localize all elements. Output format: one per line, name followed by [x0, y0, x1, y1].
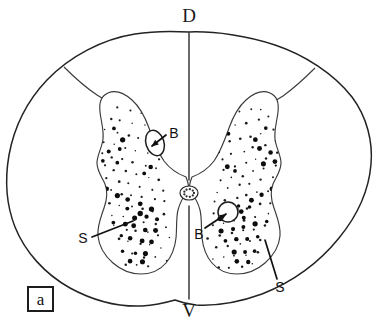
stipple-dot: [227, 187, 229, 189]
stipple-dot: [225, 164, 230, 169]
stipple-dot: [264, 144, 266, 146]
stipple-dot: [116, 106, 118, 108]
stipple-dot: [228, 267, 230, 269]
stipple-dot: [140, 113, 142, 115]
stipple-dot: [107, 149, 111, 153]
stipple-dot: [147, 231, 149, 233]
stipple-dot: [128, 236, 133, 241]
stipple-dot: [163, 213, 166, 216]
stipple-dot: [111, 221, 115, 225]
stipple-dot: [235, 259, 240, 264]
stipple-dot: [110, 189, 112, 191]
central-canal-dot: [189, 196, 191, 198]
stipple-dot: [267, 190, 269, 192]
stipple-dot: [155, 217, 159, 221]
stipple-dot: [105, 177, 107, 179]
stipple-dot: [143, 228, 148, 233]
stipple-dot: [118, 237, 121, 240]
stipple-dot: [245, 194, 248, 197]
stipple-dot: [245, 254, 247, 256]
stipple-dot: [239, 137, 242, 140]
stipple-dot: [242, 216, 246, 220]
stipple-dot: [144, 215, 148, 219]
stipple-dot: [228, 140, 230, 142]
stipple-dot: [265, 157, 268, 160]
stipple-dot: [224, 199, 227, 202]
stipple-dot: [121, 158, 123, 160]
stipple-dot: [101, 152, 103, 154]
stipple-dot: [143, 256, 145, 258]
panel-label-box: a: [27, 286, 54, 312]
stipple-dot: [157, 178, 160, 181]
stipple-dot: [149, 244, 150, 245]
stipple-dot: [243, 151, 245, 153]
stipple-dot: [251, 146, 253, 148]
stipple-dot: [248, 205, 252, 209]
stipple-dot: [135, 173, 137, 175]
central-canal-dot: [183, 193, 185, 195]
stipple-dot: [126, 229, 128, 231]
stipple-dot: [131, 252, 133, 254]
stipple-dot: [239, 209, 244, 214]
stipple-dot: [110, 118, 112, 120]
stipple-dot: [148, 177, 149, 178]
panel-label-letter: a: [37, 291, 45, 308]
stipple-dot: [139, 186, 141, 188]
stipple-dot: [125, 170, 128, 173]
stipple-dot: [155, 167, 157, 169]
stipple-dot: [162, 190, 164, 192]
stipple-dot: [231, 232, 234, 235]
stipple-dot: [253, 221, 258, 226]
stipple-dot: [263, 167, 265, 169]
stipple-dot: [157, 234, 159, 236]
stipple-dot: [117, 132, 119, 134]
stipple-dot: [224, 239, 228, 243]
stipple-dot: [218, 234, 221, 237]
stipple-dot: [206, 237, 209, 240]
stipple-dot: [140, 196, 142, 198]
stipple-dot: [236, 197, 238, 199]
central-canal-dot: [193, 192, 195, 194]
stipple-dot: [227, 245, 229, 247]
stipple-dot: [131, 206, 133, 208]
ventral-orientation-label: V: [182, 300, 196, 321]
stipple-dot: [264, 126, 268, 130]
stipple-dot: [145, 165, 147, 167]
stipple-dot: [258, 119, 260, 121]
stipple-dot: [216, 192, 218, 194]
stipple-dot: [223, 256, 225, 258]
stipple-dot: [129, 109, 131, 111]
stipple-dot: [140, 259, 145, 264]
stipple-dot: [249, 240, 251, 242]
stipple-dot: [149, 206, 154, 211]
stipple-dot: [108, 202, 111, 205]
spinal-cord-figure: D V B B S S a: [0, 0, 379, 323]
stipple-dot: [242, 175, 245, 178]
stipple-dot: [140, 238, 145, 243]
dorsal-orientation-label: D: [182, 5, 196, 26]
stipple-dot: [252, 263, 254, 265]
stipple-dot: [151, 189, 153, 191]
annotation-label-b-right: B: [194, 226, 203, 242]
stipple-dot: [268, 213, 270, 215]
stipple-dot: [134, 252, 138, 256]
stipple-dot: [256, 235, 260, 239]
stipple-dot: [137, 137, 139, 139]
stipple-dot: [212, 258, 214, 260]
stipple-dot: [234, 124, 235, 125]
stipple-dot: [261, 161, 266, 166]
stipple-dot: [158, 158, 160, 160]
stipple-dot: [259, 203, 262, 206]
stipple-dot: [267, 116, 269, 118]
stipple-dot: [215, 246, 218, 249]
stipple-dot: [230, 177, 232, 179]
stipple-dot: [257, 146, 262, 151]
stipple-dot: [253, 249, 257, 253]
stipple-dot: [245, 237, 249, 241]
stipple-dot: [138, 211, 143, 216]
stipple-dot: [121, 250, 124, 253]
stipple-dot: [260, 109, 262, 111]
stipple-dot: [125, 197, 130, 202]
stipple-dot: [131, 161, 133, 163]
stipple-dot: [147, 152, 149, 154]
